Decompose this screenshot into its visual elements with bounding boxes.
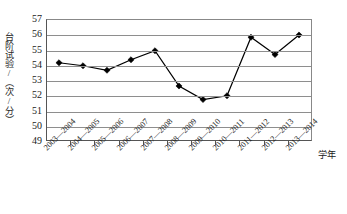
y-tick-label: 52 [32,90,42,100]
y-tick-label: 56 [32,29,42,39]
x-axis-title: 学年 [318,150,336,160]
data-point-marker [200,96,206,102]
y-tick-label: 54 [32,60,42,70]
plot-area [46,19,312,141]
y-axis-tick-labels: 575655545352515049 [18,0,44,214]
y-axis-title: 台阶试验/（次/分） [1,18,17,138]
data-point-marker [128,57,134,63]
y-tick-label: 57 [32,14,42,24]
series-line [59,35,299,99]
y-tick-label: 53 [32,75,42,85]
gridline [47,81,311,82]
gridline [47,35,311,36]
y-tick-label: 50 [32,121,42,131]
gridline [47,96,311,97]
gridline [47,51,311,52]
y-tick-label: 49 [32,136,42,146]
data-point-marker [104,67,110,73]
y-tick-label: 55 [32,45,42,55]
gridline [47,66,311,67]
data-series-line [47,20,311,140]
y-tick-label: 51 [32,106,42,116]
gridline [47,112,311,113]
step-test-line-chart: 台阶试验/（次/分） 575655545352515049 学年 2003—20… [0,0,347,214]
